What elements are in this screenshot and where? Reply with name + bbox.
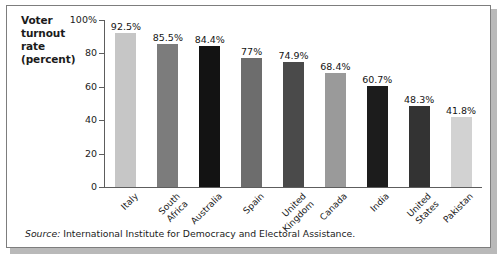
bar-value-label: 84.4% — [190, 34, 230, 45]
figure-frame: Voter turnout rate (percent) 02040608010… — [6, 5, 491, 248]
y-tick-label: 20 — [27, 148, 97, 159]
bar — [451, 117, 472, 187]
bar — [115, 33, 136, 187]
bar — [283, 62, 304, 187]
bar — [409, 106, 430, 187]
bar — [241, 58, 262, 187]
bar-value-label: 68.4% — [315, 61, 355, 72]
bar-value-label: 77% — [232, 46, 272, 57]
bar-value-label: 48.3% — [399, 94, 439, 105]
bar — [325, 73, 346, 187]
chart-plot-area: Voter turnout rate (percent) 02040608010… — [7, 6, 492, 249]
x-axis-line — [104, 187, 482, 188]
source-prefix: Source: — [25, 228, 60, 239]
y-tick-mark — [99, 187, 105, 188]
y-tick-label: 0 — [27, 181, 97, 192]
y-tick-label: 60 — [27, 81, 97, 92]
y-tick-label: 40 — [27, 114, 97, 125]
y-tick-label: 100% — [27, 14, 97, 25]
bar — [199, 46, 220, 187]
bar-value-label: 60.7% — [357, 74, 397, 85]
source-note: Source: International Institute for Demo… — [25, 228, 355, 239]
source-body: International Institute for Democracy an… — [60, 228, 355, 239]
bar-value-label: 41.8% — [441, 105, 481, 116]
bar-value-label: 85.5% — [148, 32, 188, 43]
y-tick-label: 80 — [27, 47, 97, 58]
bar-value-label: 74.9% — [274, 50, 314, 61]
bar — [367, 86, 388, 187]
bar-value-label: 92.5% — [106, 21, 146, 32]
y-axis-title-line-2: turnout — [21, 27, 95, 40]
bar — [157, 44, 178, 187]
